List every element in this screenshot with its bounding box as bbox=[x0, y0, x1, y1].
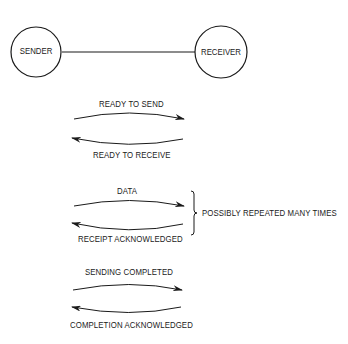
receiver-label: RECEIVER bbox=[196, 47, 246, 57]
completion-acknowledged-label: COMPLETION ACKNOWLEDGED bbox=[70, 320, 193, 330]
ready-to-receive-label: READY TO RECEIVE bbox=[93, 150, 171, 160]
arrow-ready-to-receive bbox=[72, 138, 183, 144]
arrow-data bbox=[74, 201, 184, 207]
data-label: DATA bbox=[117, 186, 137, 196]
sender-label: SENDER bbox=[13, 46, 59, 56]
ready-to-send-label: READY TO SEND bbox=[99, 99, 164, 109]
receipt-acknowledged-label: RECEIPT ACKNOWLEDGED bbox=[78, 234, 183, 244]
arrow-sending-completed bbox=[73, 285, 182, 291]
brace-note: POSSIBLY REPEATED MANY TIMES bbox=[202, 208, 337, 218]
arrow-ready-to-send bbox=[74, 113, 184, 119]
sending-completed-label: SENDING COMPLETED bbox=[85, 267, 173, 277]
brace bbox=[191, 191, 197, 235]
arrow-receipt-acknowledged bbox=[72, 223, 183, 230]
arrow-completion-acknowledged bbox=[72, 307, 181, 313]
